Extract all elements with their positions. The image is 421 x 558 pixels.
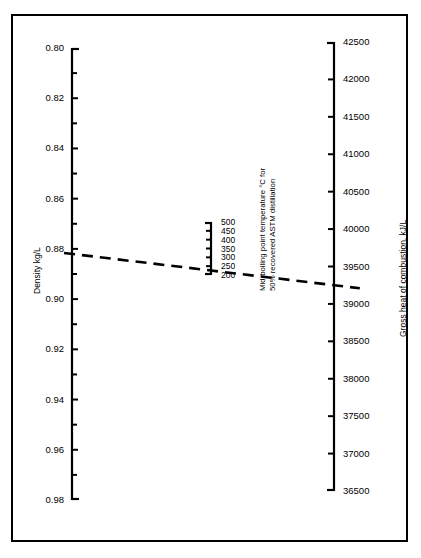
tick-label-gross-heat-of-combustion: 40000	[343, 224, 369, 234]
tick-label-gross-heat-of-combustion: 39000	[343, 299, 369, 309]
tick-label-gross-heat-of-combustion: 40500	[343, 187, 369, 197]
tick-label-density: 0.92	[46, 345, 65, 355]
axis-title-mid-boiling-point-line1: Mid-boiling point temperature °C for	[259, 168, 267, 291]
tick-label-mid-boiling-point: 200	[221, 271, 235, 280]
tick-label-density: 0.84	[46, 144, 65, 154]
tick-label-gross-heat-of-combustion: 39500	[343, 262, 369, 272]
tick-label-density: 0.86	[46, 194, 65, 204]
axis-title-density: Density kg/L	[33, 247, 42, 294]
axis-lines-group	[72, 42, 334, 500]
tick-label-gross-heat-of-combustion: 37000	[343, 449, 369, 459]
tick-label-gross-heat-of-combustion: 42500	[343, 37, 369, 47]
nomogram-figure: 0.800.820.840.860.880.900.920.940.960.98…	[0, 0, 421, 558]
tick-label-gross-heat-of-combustion: 42000	[343, 75, 369, 85]
tick-label-gross-heat-of-combustion: 37500	[343, 411, 369, 421]
axis-title-gross-heat-of-combustion: Gross heat of combustion, kJ/L	[399, 220, 408, 337]
axis-title-mid-boiling-point-line2: 50% recovered ASTM distillation	[269, 179, 277, 291]
tick-label-density: 0.98	[46, 495, 65, 505]
tick-label-gross-heat-of-combustion: 41500	[343, 112, 369, 122]
tick-label-density: 0.82	[46, 93, 65, 103]
tick-label-gross-heat-of-combustion: 38500	[343, 337, 369, 347]
tick-label-density: 0.90	[46, 294, 65, 304]
tick-label-density: 0.80	[46, 43, 65, 53]
tick-label-density: 0.94	[46, 395, 65, 405]
tick-label-density: 0.96	[46, 445, 65, 455]
tick-label-gross-heat-of-combustion: 41000	[343, 150, 369, 160]
tick-label-gross-heat-of-combustion: 36500	[343, 486, 369, 496]
tick-label-gross-heat-of-combustion: 38000	[343, 374, 369, 384]
tick-label-density: 0.88	[46, 244, 65, 254]
